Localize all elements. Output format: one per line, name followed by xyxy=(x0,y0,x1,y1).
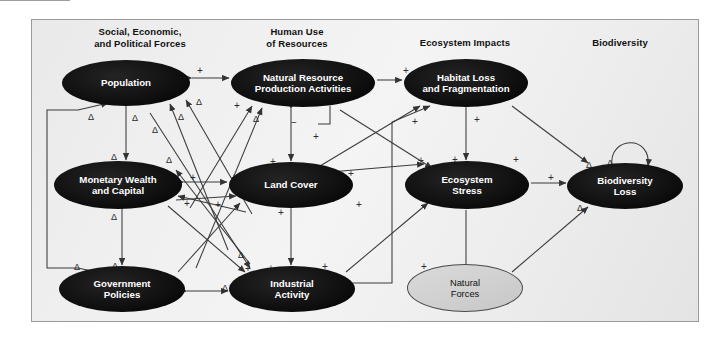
edge-sign-s8: + xyxy=(234,101,240,111)
edge-sign-s4: Δ xyxy=(132,113,138,123)
edge-habitat-biodivloss xyxy=(512,106,588,163)
edge-sign-s13: + xyxy=(412,117,418,127)
edge-sign-s7: Δ xyxy=(152,125,158,135)
edge-sign-s20: + xyxy=(215,200,221,210)
node-monetary-wealth-line1: Monetary Wealth xyxy=(79,174,156,185)
edge-sign-s9: Δ xyxy=(253,114,259,124)
edge-sign-s6: Δ xyxy=(196,97,202,107)
column-header-ecosystem-line1: Ecosystem Impacts xyxy=(395,37,535,49)
edge-sign-s10: − xyxy=(291,118,297,128)
node-habitat-loss-line2: and Fragmentation xyxy=(422,83,509,94)
node-ecosystem-stress-label: Ecosystem Stress xyxy=(441,174,492,197)
node-monetary-wealth-line2: and Capital xyxy=(79,185,156,196)
column-header-social-line1: Social, Economic, xyxy=(60,26,220,38)
node-government-policies[interactable]: Government Policies xyxy=(59,266,185,312)
node-biodiversity-loss[interactable]: Biodiversity Loss xyxy=(567,163,683,209)
node-biodiversity-loss-line2: Loss xyxy=(597,186,652,197)
node-industrial-activity-line1: Industrial xyxy=(270,278,314,289)
edge-naturalforces-biodivloss xyxy=(512,207,588,272)
edge-sign-s17: + xyxy=(190,173,196,183)
edge-sign-s31: Δ xyxy=(111,212,117,222)
node-population-line1: Population xyxy=(101,77,151,88)
node-government-policies-line2: Policies xyxy=(93,289,150,300)
edge-monetary-industrial xyxy=(168,206,245,272)
node-biodiversity-loss-line1: Biodiversity xyxy=(597,175,652,186)
node-population[interactable]: Population xyxy=(62,60,190,106)
node-ecosystem-stress-line1: Ecosystem xyxy=(441,174,492,185)
edge-sign-s24: + xyxy=(356,200,362,210)
edge-natresource-stub xyxy=(318,106,330,124)
edge-sign-s25: + xyxy=(418,156,424,166)
edge-sign-s33: Δ xyxy=(74,262,80,272)
edge-sign-s30: Δ xyxy=(577,203,583,213)
edge-sign-s19: + xyxy=(184,199,190,209)
node-population-label: Population xyxy=(101,77,151,88)
edge-sign-s40: Δ xyxy=(238,250,244,260)
edge-sign-s14: + xyxy=(474,115,480,125)
edge-sign-s27: + xyxy=(548,173,554,183)
diagram-canvas: Social, Economic, and Political Forces H… xyxy=(0,0,727,344)
column-header-humanuse-line2: of Resources xyxy=(232,38,362,50)
node-industrial-activity-line2: Activity xyxy=(270,289,314,300)
edge-sign-s3: Δ xyxy=(88,112,94,122)
node-biodiversity-loss-label: Biodiversity Loss xyxy=(597,175,652,198)
node-land-cover[interactable]: Land Cover xyxy=(229,162,353,208)
column-header-social-line2: and Political Forces xyxy=(60,38,220,50)
node-monetary-wealth-label: Monetary Wealth and Capital xyxy=(79,174,156,197)
node-natural-forces-label: Natural Forces xyxy=(450,277,480,300)
edge-landcover-habitat xyxy=(320,106,420,166)
node-monetary-wealth[interactable]: Monetary Wealth and Capital xyxy=(54,161,182,209)
node-habitat-loss-line1: Habitat Loss xyxy=(422,72,509,83)
node-habitat-loss[interactable]: Habitat Loss and Fragmentation xyxy=(404,59,528,107)
edge-sign-s16: Δ xyxy=(166,155,172,165)
column-header-humanuse-line1: Human Use xyxy=(232,26,362,38)
node-natural-forces-line2: Forces xyxy=(450,288,480,299)
node-habitat-loss-label: Habitat Loss and Fragmentation xyxy=(422,72,509,95)
node-natural-resource-production-label: Natural Resource Production Activities xyxy=(255,72,352,95)
column-header-ecosystem: Ecosystem Impacts xyxy=(395,37,535,49)
node-ecosystem-stress-line2: Stress xyxy=(441,185,492,196)
node-natural-resource-production[interactable]: Natural Resource Production Activities xyxy=(231,59,375,107)
column-header-biodiversity: Biodiversity xyxy=(555,37,685,49)
node-natural-forces-line1: Natural xyxy=(450,277,480,288)
node-land-cover-label: Land Cover xyxy=(264,179,317,190)
node-natural-resource-production-line1: Natural Resource xyxy=(255,72,352,83)
edge-sign-s32: + xyxy=(278,208,284,218)
column-header-humanuse: Human Use of Resources xyxy=(232,26,362,49)
column-header-biodiversity-line1: Biodiversity xyxy=(555,37,685,49)
node-government-policies-label: Government Policies xyxy=(93,278,150,301)
edge-sign-s35: Δ xyxy=(222,283,228,293)
node-industrial-activity[interactable]: Industrial Activity xyxy=(229,266,355,312)
node-government-policies-line1: Government xyxy=(93,278,150,289)
node-natural-resource-production-line2: Production Activities xyxy=(255,83,352,94)
edge-industrial-ecostress xyxy=(346,203,428,272)
node-land-cover-line1: Land Cover xyxy=(264,179,317,190)
edge-sign-s11: + xyxy=(313,132,319,142)
edge-sign-s1: + xyxy=(197,66,203,76)
column-header-social: Social, Economic, and Political Forces xyxy=(60,26,220,49)
edge-sign-s41: + xyxy=(513,155,519,165)
node-ecosystem-stress[interactable]: Ecosystem Stress xyxy=(405,161,529,209)
node-industrial-activity-label: Industrial Activity xyxy=(270,278,314,301)
node-natural-forces[interactable]: Natural Forces xyxy=(407,264,523,312)
edge-sign-s5: Δ xyxy=(178,112,184,122)
